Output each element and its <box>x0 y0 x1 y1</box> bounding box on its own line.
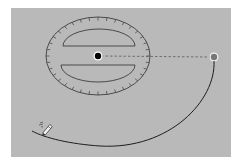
drag-handle-core <box>211 54 217 60</box>
dial-tick <box>129 26 131 29</box>
dial-tick <box>140 74 143 76</box>
dial-tick <box>80 19 81 22</box>
dial-tick <box>47 49 50 50</box>
dial-tick <box>135 31 138 33</box>
dial-tick <box>89 18 90 21</box>
center-pivot-dot-core <box>95 53 101 59</box>
dial-tick <box>65 26 67 29</box>
dial-tick <box>80 89 81 92</box>
dial-tick <box>135 79 138 81</box>
trace-curve <box>32 61 214 146</box>
dial-tick <box>122 22 124 25</box>
dial-tick <box>72 87 74 90</box>
pencil-scribble <box>39 122 43 127</box>
dial-diagram <box>0 0 237 165</box>
dial-tick <box>140 37 143 39</box>
dial-tick <box>129 83 131 86</box>
lower-slot <box>61 65 135 82</box>
dashed-radius-line <box>101 56 210 57</box>
dial-tick <box>58 79 61 81</box>
dial-tick <box>122 87 124 90</box>
dial-tick <box>106 18 107 21</box>
dial-tick <box>144 43 147 44</box>
dial-tick <box>49 43 52 44</box>
dial-tick <box>49 68 52 69</box>
dial-tick <box>115 19 116 22</box>
dial-tick <box>146 49 149 50</box>
dial-tick <box>53 74 56 76</box>
dial-tick <box>106 91 107 94</box>
dial-tick <box>115 89 116 92</box>
dial-tick <box>47 62 50 63</box>
dial-tick <box>65 83 67 86</box>
upper-slot <box>63 29 135 46</box>
dial-tick <box>144 68 147 69</box>
dial-tick <box>58 31 61 33</box>
dial-tick <box>146 62 149 63</box>
dial-tick <box>72 22 74 25</box>
dial-tick <box>89 91 90 94</box>
dial-tick <box>53 37 56 39</box>
